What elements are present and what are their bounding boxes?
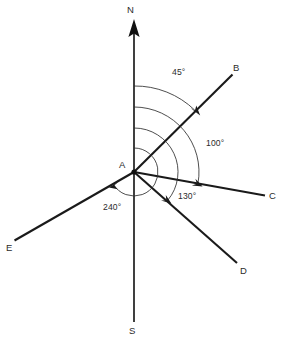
ray-ad	[134, 172, 237, 263]
label-angle-100: 100°	[206, 139, 224, 148]
label-angle-240: 240°	[103, 203, 121, 212]
label-angle-45: 45°	[172, 68, 185, 77]
bearing-diagram-canvas	[0, 0, 283, 346]
label-north: N	[127, 5, 134, 15]
vertex-dot	[131, 169, 136, 174]
ray-ab	[134, 75, 233, 173]
label-point-d: D	[240, 266, 247, 276]
label-point-a: A	[119, 160, 126, 170]
arc-45	[134, 86, 195, 110]
label-point-b: B	[233, 63, 240, 73]
label-point-e: E	[6, 243, 13, 253]
bearing-diagram: N S A B C D E 45° 100° 130° 240°	[0, 0, 283, 346]
label-angle-130: 130°	[178, 192, 196, 201]
label-point-c: C	[269, 191, 276, 201]
label-south: S	[129, 326, 136, 336]
